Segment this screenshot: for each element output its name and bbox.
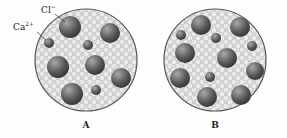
chloride-ion [175,43,195,63]
chloride-ion [111,68,131,88]
calcium-ion [211,33,221,43]
calcium-label: Ca2+ [13,22,34,32]
calcium-ion [176,30,186,40]
chloride-ion [100,23,120,43]
caption-a: A [83,120,90,130]
chloride-ion [59,16,81,38]
calcium-ion [83,40,93,50]
caption-b: B [211,120,219,130]
chloride-ion [230,17,250,37]
chloride-ion [231,85,251,105]
chloride-ion [246,62,264,80]
calcium-ion [247,41,257,51]
calcium-ion [91,85,101,95]
solution-panel-b [164,9,266,111]
chloride-label: Cl− [41,5,56,15]
calcium-ion [205,72,215,82]
chloride-ion [170,68,190,88]
chloride-ion [85,55,105,75]
chloride-ion [61,83,83,105]
chloride-ion [197,87,217,107]
chloride-ion [217,48,237,68]
ion-diagram [0,0,287,138]
chloride-ion [47,56,69,78]
chloride-ion [191,15,211,35]
solution-panel-a [35,9,137,111]
